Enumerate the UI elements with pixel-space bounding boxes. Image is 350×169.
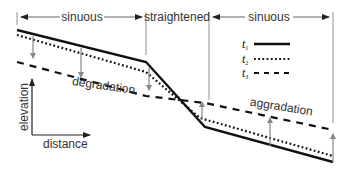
segment-label-sinuous-right: sinuous <box>248 10 289 24</box>
segment-label-straightened: straightened <box>144 10 210 24</box>
degradation-label: degradation <box>71 74 136 97</box>
segment-label-sinuous-left: sinuous <box>61 10 102 24</box>
x-axis-label: distance <box>43 137 88 151</box>
channel-profile-diagram: sinuous straightened sinuous degradation… <box>0 0 350 169</box>
y-axis-label: elevation <box>17 83 31 131</box>
legend-label-t3: t3 <box>242 66 248 80</box>
legend-label-t2: t2 <box>242 52 248 66</box>
legend-label-t1: t1 <box>242 37 248 51</box>
legend: t1 t2 t3 <box>242 37 290 80</box>
